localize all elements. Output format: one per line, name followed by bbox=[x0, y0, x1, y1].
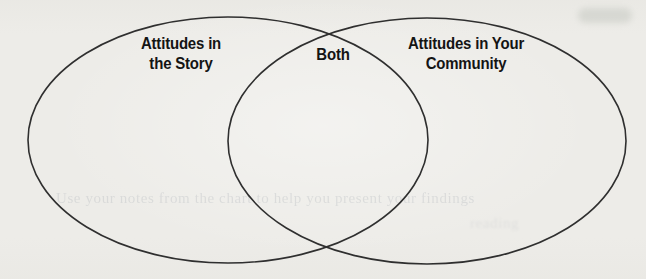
overlap-label: Both bbox=[316, 45, 349, 65]
right-circle-label-line1: Attitudes in Your bbox=[408, 34, 524, 54]
left-circle-label: Attitudes in the Story bbox=[141, 34, 221, 74]
overlap-label-text: Both bbox=[316, 45, 349, 65]
right-circle-label-line2: Community bbox=[408, 54, 524, 74]
left-circle-label-line2: the Story bbox=[141, 54, 221, 74]
venn-diagram bbox=[0, 0, 646, 279]
left-circle-label-line1: Attitudes in bbox=[141, 34, 221, 54]
right-circle-label: Attitudes in Your Community bbox=[408, 34, 524, 74]
